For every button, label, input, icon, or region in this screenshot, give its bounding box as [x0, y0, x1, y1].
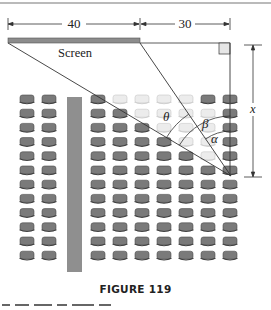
- seat: [20, 180, 35, 189]
- seat: [113, 138, 128, 147]
- seat: [157, 251, 172, 260]
- seat: [42, 95, 57, 104]
- seat: [157, 209, 172, 218]
- seat-highlighted: [157, 95, 172, 104]
- seat: [42, 109, 57, 118]
- seat-highlighted: [157, 123, 172, 132]
- seat: [201, 95, 216, 104]
- seat: [20, 123, 35, 132]
- seat: [20, 194, 35, 203]
- seat: [157, 237, 172, 246]
- seat: [42, 251, 57, 260]
- seat: [135, 123, 150, 132]
- seat: [113, 209, 128, 218]
- seat: [135, 223, 150, 232]
- seat: [42, 209, 57, 218]
- seat: [113, 109, 128, 118]
- seat: [91, 166, 106, 175]
- seat: [42, 223, 57, 232]
- seat-highlighted: [135, 109, 150, 118]
- seat: [223, 194, 238, 203]
- seat: [179, 237, 194, 246]
- seat: [201, 251, 216, 260]
- seat: [113, 180, 128, 189]
- screen-bar: [8, 38, 140, 43]
- beta-label: β: [201, 116, 209, 131]
- figure-caption: FIGURE 119: [0, 283, 271, 295]
- seat: [157, 194, 172, 203]
- aisle: [67, 97, 82, 272]
- seat: [157, 166, 172, 175]
- seat: [135, 209, 150, 218]
- seat: [135, 138, 150, 147]
- right-angle-marker: [219, 43, 230, 54]
- seat: [91, 123, 106, 132]
- seat: [113, 251, 128, 260]
- seat: [91, 138, 106, 147]
- seat: [135, 237, 150, 246]
- seat: [179, 180, 194, 189]
- seat: [20, 138, 35, 147]
- seat: [201, 223, 216, 232]
- seat: [91, 237, 106, 246]
- distance-label: x: [249, 102, 256, 116]
- theater-diagram: 40 30 Screen x θ β α: [0, 0, 271, 310]
- seat: [91, 194, 106, 203]
- seat: [135, 251, 150, 260]
- seat: [157, 223, 172, 232]
- seat: [91, 209, 106, 218]
- seat: [91, 251, 106, 260]
- screen-label: Screen: [58, 46, 93, 60]
- seat-highlighted: [179, 138, 194, 147]
- seat: [42, 166, 57, 175]
- seat-highlighted: [113, 95, 128, 104]
- seat-highlighted: [135, 95, 150, 104]
- seat: [20, 237, 35, 246]
- seat: [201, 180, 216, 189]
- seat: [20, 209, 35, 218]
- seat: [201, 166, 216, 175]
- seat: [223, 223, 238, 232]
- seat: [20, 223, 35, 232]
- seat: [201, 209, 216, 218]
- seat: [179, 152, 194, 161]
- seat: [201, 194, 216, 203]
- seat: [179, 166, 194, 175]
- seat: [42, 123, 57, 132]
- seat: [113, 223, 128, 232]
- seat: [91, 109, 106, 118]
- seat: [223, 180, 238, 189]
- seat: [91, 180, 106, 189]
- seat: [42, 237, 57, 246]
- seat: [42, 138, 57, 147]
- seat: [157, 152, 172, 161]
- seat: [91, 223, 106, 232]
- seat: [42, 152, 57, 161]
- seat: [201, 237, 216, 246]
- theta-label: θ: [163, 109, 170, 124]
- seat: [135, 180, 150, 189]
- seat: [135, 194, 150, 203]
- seat: [179, 209, 194, 218]
- seat: [91, 152, 106, 161]
- seat: [20, 152, 35, 161]
- offset-label: 30: [179, 16, 192, 31]
- seat: [223, 237, 238, 246]
- seat: [179, 251, 194, 260]
- seat: [179, 223, 194, 232]
- seat: [113, 152, 128, 161]
- seat: [157, 180, 172, 189]
- seat: [20, 251, 35, 260]
- seat: [223, 251, 238, 260]
- seat: [113, 166, 128, 175]
- seat: [42, 180, 57, 189]
- seat: [113, 194, 128, 203]
- seat: [42, 194, 57, 203]
- seat: [179, 194, 194, 203]
- seat: [135, 152, 150, 161]
- seat: [20, 109, 35, 118]
- cutoff-text-line: [2, 304, 132, 310]
- seat: [135, 166, 150, 175]
- seat: [20, 166, 35, 175]
- seat: [113, 123, 128, 132]
